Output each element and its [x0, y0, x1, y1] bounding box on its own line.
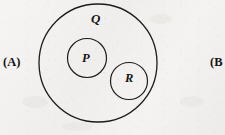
figure-page: Q P R (A) (B [0, 0, 225, 135]
euler-diagram-canvas [0, 0, 225, 135]
set-label-q: Q [91, 12, 100, 25]
option-label-b: (B [210, 56, 225, 69]
set-label-p: P [82, 52, 90, 65]
option-label-a: (A) [3, 56, 20, 69]
set-label-r: R [125, 72, 133, 85]
